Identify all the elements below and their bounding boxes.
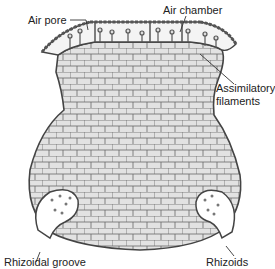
thallus-illustration [0,0,275,269]
label-rhizoidal-groove: Rhizoidal groove [4,256,86,268]
label-assimilatory: Assimilatory [216,82,275,94]
label-air-chamber: Air chamber [163,4,222,16]
label-air-pore: Air pore [28,14,67,26]
thallus-diagram: Air pore Air chamber Assimilatory filame… [0,0,275,269]
label-filaments: filaments [216,95,260,107]
label-rhizoids: Rhizoids [206,256,248,268]
